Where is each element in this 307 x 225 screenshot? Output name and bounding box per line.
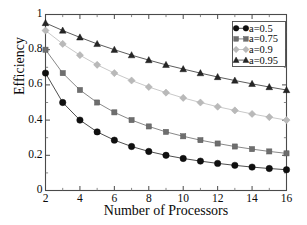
y-tick-label: 0.2	[28, 148, 42, 160]
legend-label-a-0-5: a=0.5	[249, 23, 273, 34]
data-point-marker	[266, 114, 273, 121]
data-point-marker	[266, 165, 272, 171]
x-tick-label: 12	[208, 192, 228, 204]
data-point-marker	[283, 117, 290, 124]
data-point-marker	[214, 160, 220, 166]
data-point-marker	[128, 143, 134, 149]
data-point-marker	[128, 77, 135, 84]
x-tick-label: 8	[139, 192, 159, 204]
data-point-marker	[233, 26, 239, 32]
data-point-marker	[94, 61, 101, 68]
data-point-marker	[243, 26, 249, 32]
efficiency-chart-figure: a=0.5a=0.75a=0.9a=0.95 Efficiency Number…	[0, 0, 307, 225]
data-point-marker	[181, 134, 186, 139]
data-point-marker	[215, 141, 220, 146]
x-tick-label: 10	[173, 192, 193, 204]
data-point-marker	[163, 152, 169, 158]
x-tick-label: 16	[277, 192, 297, 204]
data-point-marker	[180, 94, 187, 101]
data-point-marker	[42, 70, 48, 76]
y-axis-title: Efficiency	[12, 21, 28, 111]
data-point-marker	[244, 37, 249, 42]
data-point-marker	[111, 137, 117, 143]
data-point-marker	[94, 129, 100, 135]
data-point-marker	[163, 129, 168, 134]
data-point-marker	[77, 87, 82, 92]
data-point-marker	[234, 37, 239, 42]
data-point-marker	[146, 124, 151, 129]
data-point-marker	[146, 148, 152, 154]
x-axis-title: Number of Processors	[45, 203, 287, 219]
data-point-marker	[111, 70, 118, 77]
data-point-marker	[249, 164, 255, 170]
data-point-marker	[198, 138, 203, 143]
data-point-marker	[162, 89, 169, 96]
data-point-marker	[77, 34, 84, 40]
x-tick-label: 2	[36, 192, 56, 204]
data-point-marker	[249, 110, 256, 117]
data-point-marker	[59, 27, 66, 33]
x-tick-label: 6	[104, 192, 124, 204]
data-point-marker	[231, 107, 238, 114]
data-point-marker	[112, 110, 117, 115]
data-point-marker	[284, 151, 289, 156]
data-point-marker	[95, 100, 100, 105]
data-point-marker	[267, 149, 272, 154]
data-point-marker	[249, 147, 254, 152]
data-point-marker	[283, 167, 289, 173]
data-point-marker	[43, 47, 48, 52]
data-point-marker	[197, 158, 203, 164]
data-point-marker	[129, 118, 134, 123]
legend-label-a-0-95: a=0.95	[249, 55, 278, 66]
x-tick-label: 14	[242, 192, 262, 204]
y-tick-label: 1	[37, 7, 43, 19]
y-tick-label: 0.4	[28, 113, 42, 125]
data-point-marker	[197, 99, 204, 106]
data-point-marker	[77, 117, 83, 123]
data-point-marker	[42, 19, 49, 25]
legend: a=0.5a=0.75a=0.9a=0.95	[233, 22, 286, 67]
data-point-marker	[60, 99, 66, 105]
data-point-marker	[214, 103, 221, 110]
legend-label-a-0-75: a=0.75	[249, 33, 278, 44]
data-point-marker	[60, 71, 65, 76]
data-point-marker	[232, 162, 238, 168]
x-tick-label: 4	[70, 192, 90, 204]
data-point-marker	[180, 155, 186, 161]
y-tick-label: 0.8	[28, 42, 42, 54]
data-point-marker	[145, 83, 152, 90]
data-point-marker	[232, 144, 237, 149]
data-point-marker	[76, 52, 83, 59]
legend-label-a-0-9: a=0.9	[249, 44, 273, 55]
y-tick-label: 0.6	[28, 77, 42, 89]
